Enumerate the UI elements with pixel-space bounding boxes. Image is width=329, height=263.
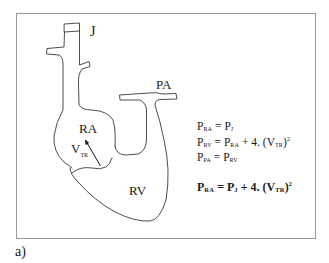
label-pulmonary-artery: PA [156, 78, 171, 91]
label-right-atrium: RA [79, 122, 97, 135]
label-jugular: J [90, 25, 95, 39]
equation-pra: PRA = PJ [197, 121, 233, 133]
heart-diagram [0, 0, 329, 263]
jugular-cap [65, 23, 80, 32]
figure-caption: a) [15, 244, 26, 260]
velocity-subscript: TR [80, 152, 88, 158]
label-velocity: VTR [71, 142, 88, 158]
vena-cava-left-wall [47, 32, 73, 168]
equation-ppa: PPA = PRV [197, 152, 238, 164]
label-right-ventricle: RV [129, 184, 146, 197]
equation-prv: PRV = PRA + 4. (VTR)2 [197, 136, 290, 149]
velocity-main: V [71, 141, 80, 156]
equation-result: PRA = PJ + 4. (VTR)2 [197, 181, 292, 194]
tricuspid-line [72, 158, 112, 173]
